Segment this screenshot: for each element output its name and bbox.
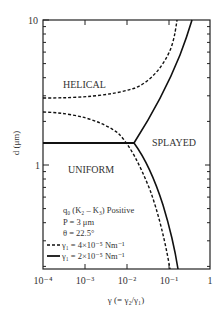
region-label-helical: HELICAL xyxy=(63,79,106,90)
x-tick-label-1e-1: 10⁻¹ xyxy=(160,275,178,286)
region-label-splayed: SPLAYED xyxy=(152,137,196,148)
legend-dashed-label: γ₁ = 4×10⁻⁵ Nm⁻¹ xyxy=(61,240,125,250)
y-tick-label-1: 1 xyxy=(35,160,40,171)
y-axis-ticks-right xyxy=(205,27,210,267)
x-tick-label-1: 1 xyxy=(208,275,213,286)
y-axis-title: d (μm) xyxy=(11,131,21,156)
x-axis-title: γ (= γ₂/γ₁) xyxy=(107,295,144,305)
annotation-q0: q₀ (K₂ – K₃) Positive xyxy=(63,205,134,215)
x-tick-label-1e-3: 10⁻³ xyxy=(76,275,94,286)
solid-boundary-helical-splayed xyxy=(134,20,192,143)
y-tick-label-10: 10 xyxy=(28,15,38,26)
x-tick-label-1e-4: 10⁻⁴ xyxy=(34,275,53,286)
region-label-uniform: UNIFORM xyxy=(68,164,114,175)
phase-diagram-chart: HELICAL SPLAYED UNIFORM q₀ (K₂ – K₃) Pos… xyxy=(0,0,221,318)
annotation-theta: θ = 22.5° xyxy=(63,228,94,238)
legend-solid-label: γ₁ = 2×10⁻⁵ Nm⁻¹ xyxy=(61,251,125,261)
x-tick-label-1e-2: 10⁻² xyxy=(118,275,136,286)
annotation-pitch: P = 3 μm xyxy=(63,217,94,227)
